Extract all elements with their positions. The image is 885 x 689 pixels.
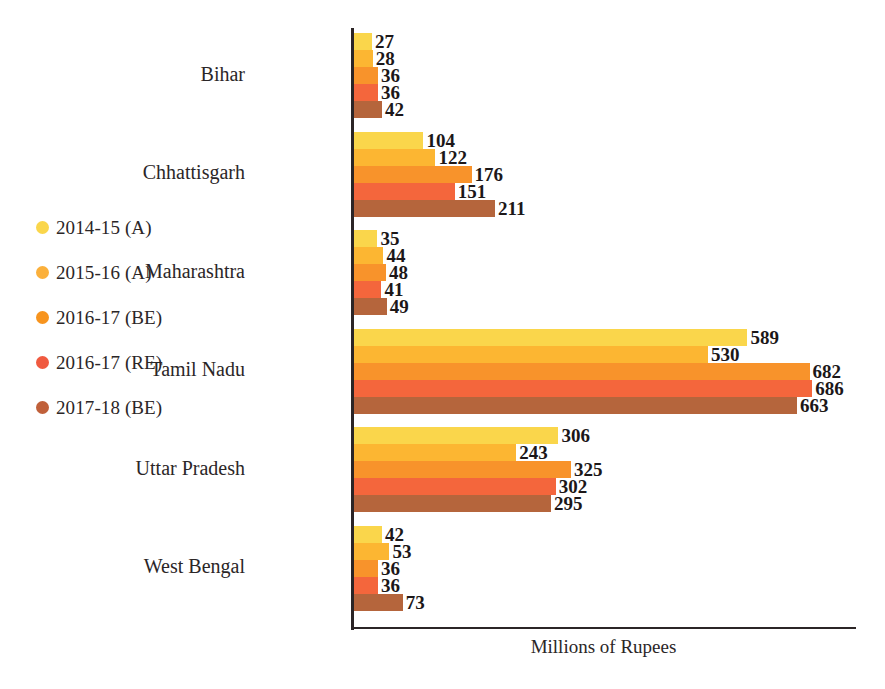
bar-row: 295 xyxy=(354,495,583,512)
bar-row: 663 xyxy=(354,397,828,414)
bar[interactable] xyxy=(354,577,378,594)
bar-group: Uttar Pradesh306243325302295 xyxy=(0,427,885,512)
bar-value-label: 211 xyxy=(498,200,525,217)
bar-value-label: 663 xyxy=(800,397,829,414)
bar[interactable] xyxy=(354,166,472,183)
bar-row: 176 xyxy=(354,166,503,183)
category-label: Maharashtra xyxy=(0,260,245,283)
bar-value-label: 295 xyxy=(554,495,583,512)
bar-row: 104 xyxy=(354,132,455,149)
bar-value-label: 73 xyxy=(406,594,425,611)
bar-row: 530 xyxy=(354,346,740,363)
x-axis-label: Millions of Rupees xyxy=(351,636,856,658)
bar-row: 306 xyxy=(354,427,590,444)
bar-value-label: 682 xyxy=(813,363,842,380)
bar[interactable] xyxy=(354,380,812,397)
bar-row: 73 xyxy=(354,594,425,611)
bar[interactable] xyxy=(354,461,571,478)
bar-value-label: 176 xyxy=(475,166,504,183)
bar[interactable] xyxy=(354,132,423,149)
bar-value-label: 686 xyxy=(815,380,844,397)
bar[interactable] xyxy=(354,363,810,380)
bar-group: West Bengal4253363673 xyxy=(0,526,885,611)
bar[interactable] xyxy=(354,281,381,298)
bar[interactable] xyxy=(354,594,403,611)
bar[interactable] xyxy=(354,50,373,67)
bar[interactable] xyxy=(354,149,435,166)
bar[interactable] xyxy=(354,247,383,264)
bar-value-label: 530 xyxy=(711,346,740,363)
bar-row: 36 xyxy=(354,577,400,594)
category-label: West Bengal xyxy=(0,555,245,578)
bar-value-label: 589 xyxy=(750,329,779,346)
bar-row: 42 xyxy=(354,526,404,543)
bar-row: 36 xyxy=(354,560,400,577)
category-label: Bihar xyxy=(0,63,245,86)
bar[interactable] xyxy=(354,478,556,495)
bar[interactable] xyxy=(354,298,387,315)
bar-value-label: 243 xyxy=(519,444,548,461)
bar-row: 243 xyxy=(354,444,548,461)
bar-row: 53 xyxy=(354,543,411,560)
bar-group: Tamil Nadu589530682686663 xyxy=(0,329,885,414)
bar[interactable] xyxy=(354,495,551,512)
bar[interactable] xyxy=(354,33,372,50)
bar[interactable] xyxy=(354,183,455,200)
bar-row: 682 xyxy=(354,363,841,380)
bar-value-label: 306 xyxy=(561,427,590,444)
bar[interactable] xyxy=(354,67,378,84)
bar-row: 686 xyxy=(354,380,844,397)
bar[interactable] xyxy=(354,84,378,101)
category-label: Uttar Pradesh xyxy=(0,457,245,480)
bar-value-label: 49 xyxy=(390,298,409,315)
bar-row: 49 xyxy=(354,298,409,315)
bar-value-label: 42 xyxy=(385,101,404,118)
bar-row: 151 xyxy=(354,183,486,200)
bar-value-label: 151 xyxy=(458,183,487,200)
bar-value-label: 122 xyxy=(438,149,467,166)
bar-row: 211 xyxy=(354,200,525,217)
bar-value-label: 36 xyxy=(381,560,400,577)
bar-value-label: 53 xyxy=(392,543,411,560)
bar[interactable] xyxy=(354,101,382,118)
bar[interactable] xyxy=(354,543,389,560)
bar[interactable] xyxy=(354,397,797,414)
bar[interactable] xyxy=(354,346,708,363)
category-label: Chhattisgarh xyxy=(0,161,245,184)
bar-group: Maharashtra3544484149 xyxy=(0,230,885,315)
bar-value-label: 36 xyxy=(381,577,400,594)
bar-group: Bihar2728363642 xyxy=(0,33,885,118)
bar[interactable] xyxy=(354,230,377,247)
bar[interactable] xyxy=(354,329,747,346)
bar-row: 302 xyxy=(354,478,587,495)
bar-value-label: 42 xyxy=(385,526,404,543)
bar-group: Chhattisgarh104122176151211 xyxy=(0,132,885,217)
bar[interactable] xyxy=(354,526,382,543)
bar[interactable] xyxy=(354,444,516,461)
bar-row: 122 xyxy=(354,149,467,166)
chart-plot-area: Millions of Rupees Bihar2728363642Chhatt… xyxy=(0,0,885,689)
bar-row: 589 xyxy=(354,329,779,346)
bar[interactable] xyxy=(354,200,495,217)
bar[interactable] xyxy=(354,560,378,577)
bar-value-label: 104 xyxy=(426,132,455,149)
bar[interactable] xyxy=(354,264,386,281)
category-label: Tamil Nadu xyxy=(0,358,245,381)
bar-row: 42 xyxy=(354,101,404,118)
x-axis-line xyxy=(351,627,856,629)
